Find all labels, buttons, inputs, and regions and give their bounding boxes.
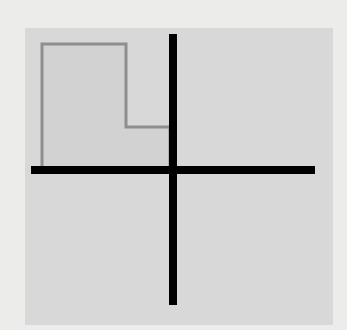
diagram-canvas (0, 0, 347, 330)
